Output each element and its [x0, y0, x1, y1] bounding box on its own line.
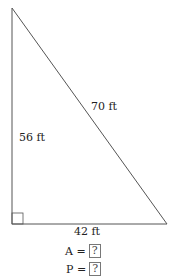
perimeter-equation: P = ? — [66, 262, 101, 276]
perimeter-answer-box[interactable]: ? — [89, 262, 101, 276]
hypotenuse-label: 70 ft — [91, 101, 117, 113]
triangle — [12, 8, 167, 224]
right-angle-marker — [12, 213, 23, 224]
vertical-leg-label: 56 ft — [19, 132, 45, 144]
horizontal-leg-label: 42 ft — [74, 226, 100, 238]
area-label: A = — [65, 245, 86, 258]
area-answer-box[interactable]: ? — [89, 244, 101, 258]
area-equation: A = ? — [65, 244, 101, 258]
perimeter-label: P = — [66, 263, 86, 276]
